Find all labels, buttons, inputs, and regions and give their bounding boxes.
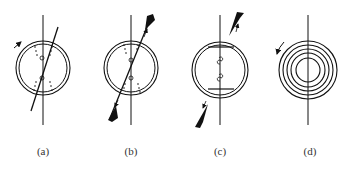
panel-b xyxy=(104,14,158,125)
jet-cone-icon xyxy=(108,106,118,122)
tilted-line xyxy=(31,27,58,111)
arrow-icon xyxy=(236,24,238,32)
rotation-arrow-icon xyxy=(277,42,284,54)
arrow-icon xyxy=(203,101,206,108)
panel-d-label: (d) xyxy=(304,145,317,157)
jet-cone-icon xyxy=(229,12,244,36)
dotted-field-icon xyxy=(123,44,141,93)
panel-d xyxy=(277,15,337,125)
panel-c xyxy=(192,12,248,128)
physics-diagram xyxy=(0,0,344,172)
jet-cone-icon xyxy=(145,14,155,30)
jet-cone-icon xyxy=(195,104,208,128)
rotation-arrow-icon xyxy=(14,42,21,48)
panel-a-label: (a) xyxy=(37,145,49,157)
panel-a xyxy=(14,15,70,125)
panel-b-label: (b) xyxy=(125,145,138,157)
panel-c-label: (c) xyxy=(214,145,226,157)
